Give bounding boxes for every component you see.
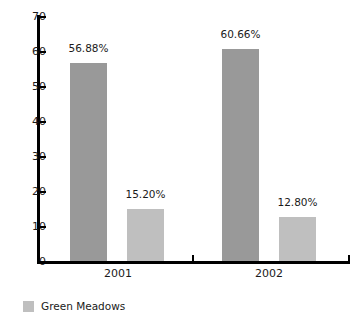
bar-label-2001-series1: 56.88% [62,43,115,54]
x-category-label-2001: 2001 [90,268,146,280]
y-tick-70: 70 [0,16,46,18]
legend-swatch-green-meadows [23,301,34,312]
x-tick-right-end [348,255,350,262]
y-tick-60: 60 [0,51,46,53]
y-tick-mark-20 [40,191,46,193]
y-tick-10: 10 [0,226,46,228]
bar-2001-series2 [127,209,164,262]
bar-2001-series1 [70,63,107,262]
y-tick-mark-30 [40,156,46,158]
chart-legend: Green Meadows [23,301,125,312]
y-tick-mark-50 [40,86,46,88]
y-tick-mark-40 [40,121,46,123]
bar-2002-series1 [222,49,259,262]
bar-label-2001-series2: 15.20% [119,189,172,200]
y-tick-mark-10 [40,226,46,228]
y-tick-30: 30 [0,156,46,158]
bar-label-2002-series1: 60.66% [214,29,267,40]
y-tick-mark-60 [40,51,46,53]
y-tick-50: 50 [0,86,46,88]
y-tick-40: 40 [0,121,46,123]
y-tick-mark-70 [40,16,46,18]
x-tick-divider [192,255,194,262]
bar-chart: 70 60 50 40 30 20 10 [0,0,363,323]
x-category-label-2002: 2002 [241,268,297,280]
legend-label-green-meadows: Green Meadows [41,301,125,312]
plot-area: 70 60 50 40 30 20 10 [0,0,363,323]
y-tick-20: 20 [0,191,46,193]
bar-label-2002-series2: 12.80% [271,197,324,208]
bar-2002-series2 [279,217,316,262]
